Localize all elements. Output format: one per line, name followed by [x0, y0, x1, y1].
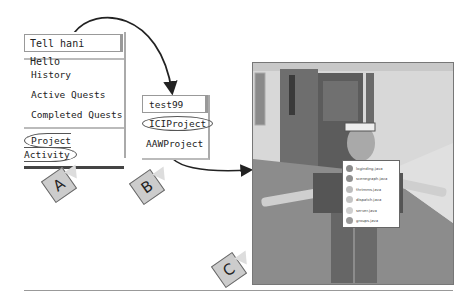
file-item[interactable]: groups.java [343, 216, 399, 227]
file-dot-icon [346, 186, 353, 193]
project-submenu: test99 ICIProject AAWProject [142, 95, 210, 160]
file-list-popup: loginding.java scenegraph.java thrimms.j… [342, 160, 400, 228]
menu-title-tell-hello[interactable]: Tell hani Hello [24, 34, 123, 52]
file-item[interactable]: server.java [343, 205, 399, 216]
file-dot-icon [346, 196, 353, 203]
menu-item-completed-quests[interactable]: Completed Quests [24, 108, 124, 122]
bottom-rule [24, 290, 453, 291]
file-item[interactable]: scenegraph.java [343, 174, 399, 185]
file-item[interactable]: loginding.java [343, 163, 399, 174]
submenu-item-iciproject[interactable]: ICIProject [142, 116, 213, 131]
menu-item-active-quests[interactable]: Active Quests [24, 88, 124, 102]
file-dot-icon [346, 165, 353, 172]
file-item[interactable]: thrimms.java [343, 184, 399, 195]
file-dot-icon [346, 207, 353, 214]
menu-item-project-activity[interactable]: Project Activity [24, 133, 77, 162]
file-dot-icon [346, 217, 353, 224]
submenu-title[interactable]: test99 [142, 95, 208, 113]
file-item[interactable]: dispatch.java [343, 195, 399, 206]
file-dot-icon [346, 175, 353, 182]
submenu-item-aawproject[interactable]: AAWProject [142, 137, 208, 151]
